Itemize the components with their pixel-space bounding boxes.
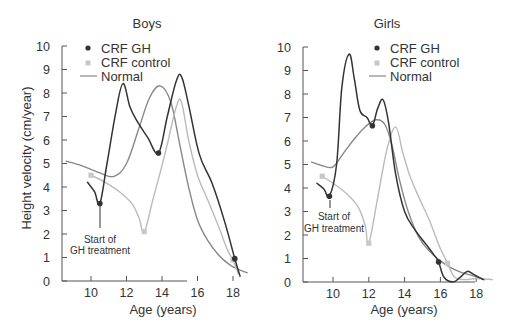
x-tick-label: 10: [326, 287, 340, 301]
annotation-start-line1: Start of: [84, 234, 116, 245]
y-tick-label: 4: [43, 181, 50, 195]
annotation-start-line1: Start of: [318, 211, 350, 222]
y-tick-label: 8: [284, 88, 291, 102]
legend-label-normal: Normal: [101, 69, 143, 84]
girls-chart-panel: Girls 0123456789101012141618 CRF GH CRF …: [277, 16, 492, 317]
x-tick-label: 16: [433, 287, 447, 301]
y-tick-label: 1: [284, 252, 291, 266]
series-line-crf-gh: [317, 54, 484, 282]
y-tick-label: 7: [284, 111, 291, 125]
y-tick-label: 9: [43, 63, 50, 77]
y-tick-label: 6: [43, 134, 50, 148]
data-marker-crf-control: [320, 174, 325, 179]
girls-axes: 0123456789101012141618: [277, 41, 483, 302]
y-tick-label: 6: [284, 135, 291, 149]
y-tick-label: 2: [284, 229, 291, 243]
x-tick-label: 12: [362, 287, 376, 301]
legend-marker-crf-gh-icon: [85, 45, 90, 50]
y-tick-label: 10: [36, 40, 50, 54]
y-tick-label: 9: [284, 64, 291, 78]
boys-chart-panel: Boys 0123456789101012141618 CRF GH CRF c…: [19, 16, 247, 317]
data-marker-crf-control: [366, 241, 371, 246]
data-marker-crf-gh: [370, 123, 376, 129]
y-tick-label: 0: [284, 276, 291, 290]
annotation-start-line2: GH treatment: [70, 245, 130, 256]
data-marker-crf-gh: [327, 193, 333, 199]
x-tick-label: 14: [155, 286, 169, 300]
growth-velocity-figure: Boys 0123456789101012141618 CRF GH CRF c…: [0, 0, 510, 336]
y-tick-label: 1: [43, 251, 50, 265]
x-tick-label: 16: [191, 286, 205, 300]
y-tick-label: 0: [43, 275, 50, 289]
legend-label-normal: Normal: [390, 69, 432, 84]
boys-chart-title: Boys: [133, 16, 162, 31]
legend-marker-crf-control-icon: [375, 61, 380, 66]
y-tick-label: 8: [43, 87, 50, 101]
girls-annotation: Start of GH treatment: [304, 200, 364, 234]
y-tick-label: 3: [43, 204, 50, 218]
y-tick-label: 10: [277, 41, 291, 55]
annotation-start-line2: GH treatment: [304, 223, 364, 234]
data-marker-crf-control: [88, 173, 93, 178]
data-marker-crf-gh: [436, 259, 442, 265]
y-tick-label: 3: [284, 205, 291, 219]
girls-chart-title: Girls: [374, 16, 401, 31]
girls-legend: CRF GH CRF control Normal: [369, 41, 459, 84]
boys-annotation: Start of GH treatment: [70, 206, 130, 256]
data-marker-crf-control: [142, 229, 147, 234]
y-tick-label: 5: [284, 158, 291, 172]
legend-label-crf-control: CRF control: [390, 55, 459, 70]
x-tick-label: 12: [120, 286, 134, 300]
data-marker-crf-gh: [156, 150, 162, 156]
x-tick-label: 18: [469, 287, 483, 301]
x-tick-label: 10: [84, 286, 98, 300]
y-tick-label: 4: [284, 182, 291, 196]
legend-label-crf-gh: CRF GH: [390, 41, 440, 56]
boys-legend: CRF GH CRF control Normal: [80, 41, 170, 84]
series-line-crf-control: [322, 127, 492, 280]
legend-label-crf-gh: CRF GH: [101, 41, 151, 56]
boys-x-axis-label: Age (years): [129, 302, 196, 317]
y-tick-label: 2: [43, 228, 50, 242]
y-tick-label: 5: [43, 157, 50, 171]
data-marker-crf-control: [445, 261, 450, 266]
girls-series: [312, 54, 493, 282]
data-marker-crf-gh: [232, 256, 238, 262]
y-axis-label: Height velocity (cm/year): [19, 86, 34, 229]
x-tick-label: 14: [398, 287, 412, 301]
legend-marker-crf-control-icon: [86, 61, 91, 66]
y-tick-label: 7: [43, 110, 50, 124]
data-marker-crf-gh: [97, 201, 103, 207]
legend-marker-crf-gh-icon: [374, 45, 379, 50]
legend-label-crf-control: CRF control: [101, 55, 170, 70]
x-tick-label: 18: [226, 286, 240, 300]
girls-x-axis-label: Age (years): [370, 302, 437, 317]
